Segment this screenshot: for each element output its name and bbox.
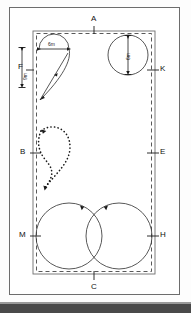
label-point-e: E — [160, 148, 165, 156]
tangent-circle-arrows — [80, 206, 108, 211]
field-diagram-svg — [0, 0, 191, 313]
dotted-teardrop-loop-path — [39, 127, 70, 189]
diagram-page: A C F B M K E H 6m 9m 6m — [0, 0, 191, 313]
label-point-k: K — [160, 65, 165, 73]
tangent-circle-left — [36, 203, 102, 269]
bottom-dark-band — [0, 304, 191, 313]
label-point-a: A — [91, 15, 96, 23]
dim-label-6m-top-left: 6m — [48, 42, 55, 47]
dotted-teardrop-loop-arrows — [42, 130, 48, 191]
label-point-c: C — [91, 283, 97, 291]
label-point-b: B — [20, 148, 25, 156]
dim-label-9m-left: 9m — [23, 73, 28, 80]
dim-label-6m-top-right: 6m — [126, 53, 131, 60]
field-outer-boundary — [33, 31, 155, 274]
label-point-h: H — [160, 231, 166, 239]
label-point-m: M — [19, 231, 26, 239]
tangent-circle-right — [86, 203, 152, 269]
label-ticks — [26, 26, 159, 280]
field-inner-boundary — [37, 34, 152, 272]
label-point-f: F — [18, 63, 23, 71]
